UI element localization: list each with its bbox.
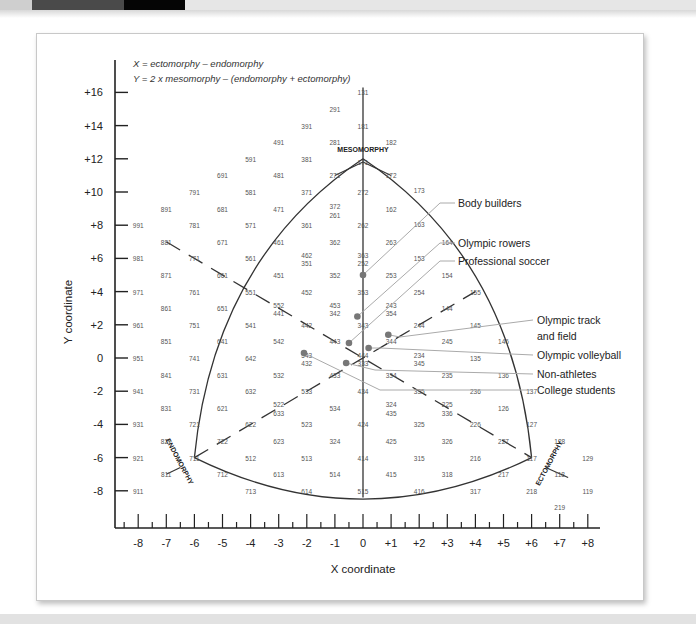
somatotype-label: 791 <box>189 189 200 196</box>
somatotype-label: 471 <box>273 206 284 213</box>
callout-leader <box>357 243 455 317</box>
somatotype-label: 661 <box>217 272 228 279</box>
somatotype-label: 552 <box>273 302 284 309</box>
somatotype-label: 591 <box>245 156 256 163</box>
somatotype-label: 129 <box>582 455 593 462</box>
somatotype-label: 117 <box>526 455 537 462</box>
somatotype-label: 613 <box>273 471 284 478</box>
x-tick-label: 0 <box>360 537 366 549</box>
somatotype-label: 722 <box>217 438 228 445</box>
somatotype-label: 261 <box>329 212 340 219</box>
x-tick-label: +7 <box>553 537 566 549</box>
somatotype-label: 444 <box>358 352 369 359</box>
somatotype-label: 781 <box>189 222 200 229</box>
somatotype-label: 391 <box>301 123 312 130</box>
somatotype-label: 741 <box>189 355 200 362</box>
somatotype-label: 442 <box>301 322 312 329</box>
somatotype-label: 432 <box>301 360 312 367</box>
somatotype-label: 633 <box>273 410 284 417</box>
somatotype-label: 245 <box>442 338 453 345</box>
somatotype-label: 219 <box>554 504 565 511</box>
somatotype-label: 671 <box>217 239 228 246</box>
y-tick-label: +6 <box>90 252 103 264</box>
somatotype-label: 461 <box>273 239 284 246</box>
somatotype-label: 621 <box>217 405 228 412</box>
y-tick-label: +16 <box>84 86 103 98</box>
somatotype-label: 325 <box>414 421 425 428</box>
somatotype-label: 425 <box>386 438 397 445</box>
x-tick-label: -3 <box>274 537 284 549</box>
y-tick-label: +14 <box>84 120 103 132</box>
x-axis-title: X coordinate <box>331 563 396 575</box>
somatotype-label: 513 <box>301 455 312 462</box>
somatotype-label: 881 <box>161 239 172 246</box>
y-tick-label: +12 <box>84 153 103 165</box>
somatotype-label: 137 <box>526 388 537 395</box>
somatotype-label: 921 <box>133 455 144 462</box>
somatotype-label: 871 <box>161 272 172 279</box>
somatotype-label: 571 <box>245 222 256 229</box>
somatotype-label: 541 <box>245 322 256 329</box>
callout-label: Body builders <box>458 197 522 209</box>
somatotype-label: 154 <box>442 272 453 279</box>
somatotype-label: 353 <box>358 289 369 296</box>
somatotype-label: 691 <box>217 172 228 179</box>
somatotype-label: 351 <box>301 260 312 267</box>
somatotype-label: 713 <box>245 488 256 495</box>
somatotype-label: 344 <box>386 338 397 345</box>
somatotype-label: 451 <box>273 272 284 279</box>
somatotype-label: 731 <box>189 388 200 395</box>
somatotype-label: 771 <box>189 255 200 262</box>
somatotype-label: 941 <box>133 388 144 395</box>
somatotype-label: 651 <box>217 305 228 312</box>
somatotype-label: 681 <box>217 206 228 213</box>
somatotype-label: 991 <box>133 222 144 229</box>
data-point <box>354 313 361 320</box>
somatotype-label: 623 <box>273 438 284 445</box>
somatotype-label: 861 <box>161 305 172 312</box>
somatotype-label: 326 <box>442 438 453 445</box>
somatotype-label: 981 <box>133 255 144 262</box>
somatotype-label: 234 <box>414 352 425 359</box>
callout-label: College students <box>537 384 615 396</box>
somatotype-label: 334 <box>386 372 397 379</box>
somatotype-label: 514 <box>329 471 340 478</box>
x-tick-label: +1 <box>385 537 398 549</box>
somatotype-label: 262 <box>358 222 369 229</box>
somatotype-label: 811 <box>161 471 172 478</box>
formula-legend: X = ectomorphy – endomorphyY = 2 x mesom… <box>132 58 350 84</box>
formula-line: X = ectomorphy – endomorphy <box>132 58 264 69</box>
somatotype-label: 181 <box>358 123 369 130</box>
somatotype-label: 534 <box>329 405 340 412</box>
somatotype-label: 235 <box>442 372 453 379</box>
region-label-ectomorphy: ECTOMORPHY <box>534 439 564 487</box>
somatotype-label: 433 <box>329 372 340 379</box>
somatotype-label: 336 <box>442 410 453 417</box>
callout-label: Olympic rowers <box>458 237 530 249</box>
x-tick-label: -2 <box>302 537 312 549</box>
somatotype-label: 236 <box>470 388 481 395</box>
somatotype-label: 317 <box>470 488 481 495</box>
somatotype-label: 343 <box>358 322 369 329</box>
y-axis-title: Y coordinate <box>62 280 74 344</box>
y-tick-label: +8 <box>90 219 103 231</box>
somatotype-label: 324 <box>386 401 397 408</box>
somatotype-label: 831 <box>161 405 172 412</box>
somatochart: X = ectomorphy – endomorphyY = 2 x mesom… <box>0 0 696 624</box>
somatotype-label: 315 <box>414 455 425 462</box>
somatotype-label: 272 <box>358 189 369 196</box>
x-tick-label: -8 <box>133 537 143 549</box>
somatotype-label: 119 <box>583 488 594 495</box>
somatotype-label: 522 <box>273 401 284 408</box>
somatotype-label: 532 <box>273 372 284 379</box>
x-tick-label: +4 <box>469 537 482 549</box>
x-tick-label: +5 <box>497 537 510 549</box>
y-tick-label: +10 <box>84 186 103 198</box>
somatotype-label: 225 <box>442 401 453 408</box>
somatotype-label: 721 <box>189 421 200 428</box>
somatotype-label: 371 <box>301 189 312 196</box>
callout-label: and field <box>537 330 577 342</box>
somatotype-label: 381 <box>301 156 312 163</box>
somatotype-label: 462 <box>301 252 312 259</box>
somatotype-label: 271 <box>329 172 340 179</box>
